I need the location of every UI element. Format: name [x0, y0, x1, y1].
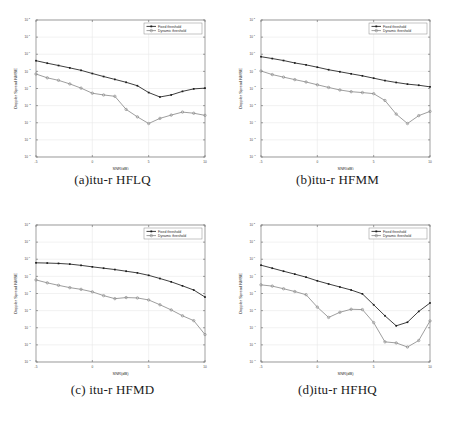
svg-text:10: 10: [25, 155, 29, 159]
svg-text:10: 10: [250, 240, 254, 244]
panel-caption-b: (b)itu-r HFMM: [225, 172, 450, 188]
svg-text:10: 10: [250, 223, 254, 227]
svg-text:Doppler Spread NMSE: Doppler Spread NMSE: [238, 273, 243, 314]
svg-text:SNR(dB): SNR(dB): [112, 166, 129, 170]
svg-text:10: 10: [25, 240, 29, 244]
chart-svg-d: 10210110010-110-210-310-410-510-6-50510S…: [225, 205, 450, 380]
svg-text:0: 0: [91, 160, 93, 164]
panel-cell-b: 10210110010-110-210-310-410-510-6-50510S…: [225, 0, 450, 205]
svg-text:-4: -4: [254, 325, 257, 327]
svg-text:10: 10: [25, 257, 29, 261]
svg-text:10: 10: [250, 52, 254, 56]
chart-panel-b: 10210110010-110-210-310-410-510-6-50510S…: [225, 0, 450, 170]
svg-text:10: 10: [250, 104, 254, 108]
svg-text:0: 0: [316, 365, 318, 369]
svg-text:10: 10: [25, 360, 29, 364]
svg-text:-2: -2: [254, 85, 257, 87]
svg-text:-4: -4: [254, 120, 257, 122]
svg-text:-5: -5: [254, 137, 257, 139]
svg-text:10: 10: [250, 70, 254, 74]
svg-text:-3: -3: [254, 308, 257, 310]
svg-text:-1: -1: [29, 273, 32, 275]
svg-text:10: 10: [250, 18, 254, 22]
svg-text:-4: -4: [29, 325, 32, 327]
panel-cell-c: 10210110010-110-210-310-410-510-6-50510S…: [0, 205, 225, 429]
svg-text:-4: -4: [29, 120, 32, 122]
svg-text:-2: -2: [29, 290, 32, 292]
svg-text:-6: -6: [254, 154, 257, 156]
chart-svg-a: 10210110010-110-210-310-410-510-6-50510S…: [0, 0, 225, 170]
svg-text:-5: -5: [260, 160, 263, 164]
svg-text:2: 2: [254, 222, 256, 224]
svg-text:-3: -3: [254, 103, 257, 105]
svg-text:-6: -6: [254, 359, 257, 361]
svg-text:10: 10: [250, 155, 254, 159]
svg-text:-6: -6: [29, 154, 32, 156]
svg-text:10: 10: [428, 160, 432, 164]
svg-text:-5: -5: [254, 342, 257, 344]
svg-text:10: 10: [250, 326, 254, 330]
panel-caption-c: (c) itu-r HFMD: [0, 382, 225, 398]
svg-text:1: 1: [29, 239, 31, 241]
svg-text:10: 10: [250, 138, 254, 142]
chart-panel-d: 10210110010-110-210-310-410-510-6-50510S…: [225, 205, 450, 380]
figure-grid: 10210110010-110-210-310-410-510-6-50510S…: [0, 0, 450, 429]
svg-text:5: 5: [148, 160, 150, 164]
svg-text:-3: -3: [29, 103, 32, 105]
svg-text:0: 0: [29, 256, 31, 258]
svg-text:10: 10: [250, 292, 254, 296]
svg-text:-1: -1: [254, 273, 257, 275]
svg-text:10: 10: [25, 104, 29, 108]
svg-text:Dynamic threshold: Dynamic threshold: [383, 234, 411, 238]
svg-text:-3: -3: [29, 308, 32, 310]
svg-text:Doppler Spread NMSE: Doppler Spread NMSE: [238, 68, 243, 109]
chart-svg-b: 10210110010-110-210-310-410-510-6-50510S…: [225, 0, 450, 170]
chart-svg-c: 10210110010-110-210-310-410-510-6-50510S…: [0, 205, 225, 380]
panel-cell-a: 10210110010-110-210-310-410-510-6-50510S…: [0, 0, 225, 205]
svg-text:1: 1: [254, 34, 256, 36]
svg-text:SNR(dB): SNR(dB): [337, 166, 354, 170]
svg-text:10: 10: [25, 35, 29, 39]
svg-text:Doppler Spread NMSE: Doppler Spread NMSE: [13, 273, 18, 314]
svg-text:10: 10: [25, 292, 29, 296]
svg-text:10: 10: [250, 121, 254, 125]
svg-text:SNR(dB): SNR(dB): [337, 371, 354, 376]
svg-text:-2: -2: [29, 85, 32, 87]
svg-text:-1: -1: [29, 68, 32, 70]
svg-text:Doppler Spread NMSE: Doppler Spread NMSE: [13, 68, 18, 109]
svg-text:-5: -5: [260, 365, 263, 369]
svg-text:-1: -1: [254, 68, 257, 70]
svg-text:10: 10: [203, 160, 207, 164]
svg-text:10: 10: [25, 18, 29, 22]
svg-text:10: 10: [25, 121, 29, 125]
svg-text:10: 10: [250, 343, 254, 347]
svg-text:10: 10: [250, 87, 254, 91]
svg-text:Dynamic threshold: Dynamic threshold: [158, 29, 186, 33]
svg-text:0: 0: [91, 365, 93, 369]
svg-text:10: 10: [250, 35, 254, 39]
chart-panel-a: 10210110010-110-210-310-410-510-6-50510S…: [0, 0, 225, 170]
svg-text:10: 10: [250, 309, 254, 313]
svg-text:10: 10: [250, 257, 254, 261]
svg-text:0: 0: [29, 51, 31, 53]
svg-text:2: 2: [29, 17, 31, 19]
svg-text:10: 10: [25, 309, 29, 313]
svg-text:-5: -5: [29, 137, 32, 139]
svg-text:10: 10: [25, 275, 29, 279]
svg-text:10: 10: [428, 365, 432, 369]
svg-text:10: 10: [25, 223, 29, 227]
svg-text:0: 0: [254, 256, 256, 258]
svg-text:Dynamic threshold: Dynamic threshold: [158, 234, 186, 238]
svg-text:-6: -6: [29, 359, 32, 361]
svg-text:5: 5: [373, 160, 375, 164]
svg-text:-5: -5: [35, 365, 38, 369]
svg-text:2: 2: [254, 17, 256, 19]
svg-text:0: 0: [316, 160, 318, 164]
svg-text:SNR(dB): SNR(dB): [112, 371, 129, 376]
svg-text:5: 5: [148, 365, 150, 369]
svg-text:Dynamic threshold: Dynamic threshold: [383, 29, 411, 33]
svg-text:10: 10: [25, 87, 29, 91]
svg-text:1: 1: [29, 34, 31, 36]
svg-text:5: 5: [373, 365, 375, 369]
svg-text:10: 10: [25, 326, 29, 330]
